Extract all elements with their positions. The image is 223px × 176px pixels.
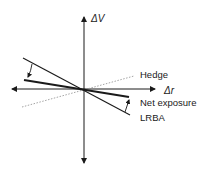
hedge-label: Hedge <box>140 69 168 80</box>
lrba-label: LRBA <box>140 112 165 123</box>
net-exposure-label: Net exposure <box>140 97 197 108</box>
y-axis-label: ΔV <box>90 13 106 24</box>
x-axis-label: Δr <box>163 85 175 96</box>
hedge-line <box>22 76 134 107</box>
left-rotation-arrow-icon <box>28 64 32 77</box>
diagram-canvas: ΔV Δr Hedge Net exposure LRBA <box>0 0 223 176</box>
right-rotation-arrow-icon <box>125 100 129 112</box>
lrba-line <box>23 58 130 115</box>
